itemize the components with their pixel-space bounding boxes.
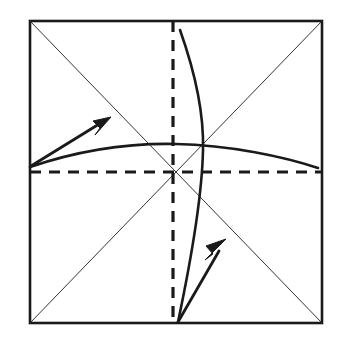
origami-diagram: [0, 0, 341, 348]
diagram-background: [0, 0, 341, 348]
origami-canvas: [0, 0, 341, 348]
